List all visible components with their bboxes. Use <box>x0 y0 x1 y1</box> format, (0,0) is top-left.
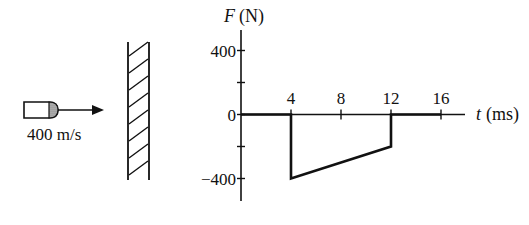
x-axis-label: t(ms) <box>476 104 519 125</box>
x-tick-label: 8 <box>337 89 346 108</box>
bullet-icon <box>24 102 58 118</box>
diagram-canvas: 400 m/s 4000−400481216F(N)t(ms) <box>0 0 529 225</box>
velocity-arrow-icon <box>58 105 104 115</box>
force-curve <box>241 115 441 179</box>
y-tick-label: 0 <box>228 106 237 125</box>
y-tick-label: 400 <box>211 42 237 61</box>
force-time-chart: 4000−400481216F(N)t(ms) <box>201 6 519 201</box>
y-tick-label: −400 <box>201 170 236 189</box>
x-tick-label: 4 <box>287 89 296 108</box>
x-tick-label: 12 <box>383 89 400 108</box>
speed-label: 400 m/s <box>27 125 81 144</box>
x-tick-label: 16 <box>433 89 450 108</box>
hatched-wall-icon <box>128 42 149 180</box>
y-axis-label: F(N) <box>223 6 264 27</box>
